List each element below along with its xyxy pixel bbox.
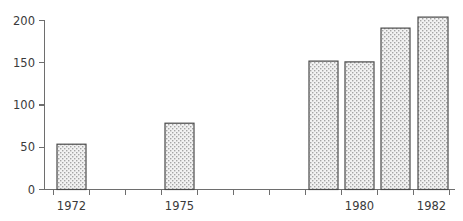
bar-1982[interactable] xyxy=(418,17,448,189)
bar-chart-figure: 0 50 100 150 200 xyxy=(0,0,463,221)
y-tick-label-0: 0 xyxy=(28,183,35,197)
bar-1975[interactable] xyxy=(165,123,194,189)
bar-1979[interactable] xyxy=(309,61,338,189)
x-tick-label-1980: 1980 xyxy=(345,199,374,213)
x-tick-label-1975: 1975 xyxy=(165,199,194,213)
y-tick-label-100: 100 xyxy=(13,98,35,112)
bar-1980[interactable] xyxy=(345,62,374,190)
y-tick-label-200: 200 xyxy=(13,14,35,28)
x-tick-label-1982: 1982 xyxy=(417,199,446,213)
chart-canvas: 0 50 100 150 200 xyxy=(0,0,463,221)
y-tick-label-150: 150 xyxy=(13,56,35,70)
bar-1981[interactable] xyxy=(381,28,410,189)
bar-1972[interactable] xyxy=(57,144,86,189)
x-tick-label-1972: 1972 xyxy=(57,199,86,213)
y-tick-label-50: 50 xyxy=(20,140,35,154)
